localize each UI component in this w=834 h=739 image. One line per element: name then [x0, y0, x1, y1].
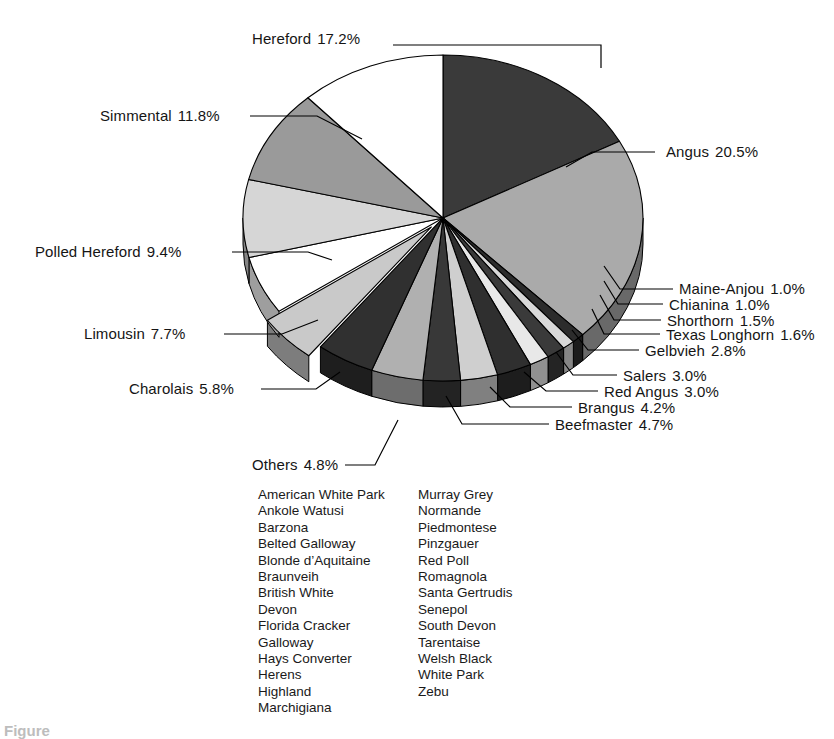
breed-item-left-2: Barzona	[258, 520, 418, 536]
breed-item-right-2: Piedmontese	[418, 520, 513, 536]
callout-hereford-name: Hereford	[252, 30, 311, 47]
callout-texas-longhorn-pct: 1.6%	[780, 326, 815, 343]
breed-item-right-8: South Devon	[418, 618, 513, 634]
breed-item-right-11: White Park	[418, 667, 513, 683]
breed-item-right-4: Red Poll	[418, 553, 513, 569]
breed-item-left-6: British White	[258, 585, 418, 601]
leader-others	[345, 420, 398, 465]
callout-red-angus-pct: 3.0%	[684, 383, 719, 400]
callout-polled-hereford-name: Polled Hereford	[35, 243, 141, 260]
callout-others-name: Others	[252, 456, 298, 473]
breed-item-left-0: American White Park	[258, 487, 418, 503]
callout-brangus: Brangus4.2%	[578, 399, 675, 416]
callout-others-pct: 4.8%	[304, 456, 339, 473]
callout-gelbvieh-pct: 2.8%	[711, 342, 746, 359]
callout-charolais-name: Charolais	[129, 380, 193, 397]
callout-polled-hereford-pct: 9.4%	[147, 243, 182, 260]
others-breed-column-left: American White ParkAnkole WatusiBarzonaB…	[258, 487, 418, 717]
others-breed-lists: American White ParkAnkole WatusiBarzonaB…	[258, 487, 513, 717]
breed-item-left-4: Blonde d’Aquitaine	[258, 553, 418, 569]
breed-item-left-11: Herens	[258, 667, 418, 683]
callout-angus-name: Angus	[666, 143, 709, 160]
callout-simmental-name: Simmental	[100, 107, 172, 124]
callout-texas-longhorn: Texas Longhorn1.6%	[666, 326, 815, 343]
callout-simmental: Simmental11.8%	[100, 107, 220, 124]
pie-top-face	[243, 55, 643, 381]
callout-chianina-pct: 1.0%	[735, 296, 770, 313]
callout-chianina-name: Chianina	[669, 296, 729, 313]
callout-hereford: Hereford17.2%	[252, 30, 360, 47]
callout-salers-pct: 3.0%	[672, 367, 707, 384]
callout-maine-anjou-name: Maine-Anjou	[679, 280, 764, 297]
callout-gelbvieh: Gelbvieh2.8%	[645, 342, 746, 359]
callout-simmental-pct: 11.8%	[178, 107, 220, 124]
others-breed-column-right: Murray GreyNormandePiedmontesePinzgauerR…	[418, 487, 513, 717]
breed-item-left-5: Braunveih	[258, 569, 418, 585]
pie-slice-depth-red-angus	[423, 380, 461, 407]
callout-charolais-pct: 5.8%	[199, 380, 234, 397]
callout-beefmaster-pct: 4.7%	[639, 416, 674, 433]
callout-limousin: Limousin7.7%	[84, 325, 185, 342]
callout-limousin-name: Limousin	[84, 325, 145, 342]
breed-item-left-13: Marchigiana	[258, 700, 418, 716]
breed-item-right-9: Tarentaise	[418, 635, 513, 651]
figure-caption: Figure	[4, 722, 50, 739]
callout-angus-pct: 20.5%	[715, 143, 758, 160]
callout-limousin-pct: 7.7%	[151, 325, 186, 342]
callout-red-angus-name: Red Angus	[604, 383, 678, 400]
callout-hereford-pct: 17.2%	[317, 30, 360, 47]
callout-salers: Salers3.0%	[623, 367, 707, 384]
callout-brangus-name: Brangus	[578, 399, 635, 416]
callout-maine-anjou: Maine-Anjou1.0%	[679, 280, 805, 297]
callout-texas-longhorn-name: Texas Longhorn	[666, 326, 774, 343]
breed-item-left-8: Florida Cracker	[258, 618, 418, 634]
breed-item-right-0: Murray Grey	[418, 487, 513, 503]
breed-item-left-9: Galloway	[258, 635, 418, 651]
breed-item-right-1: Normande	[418, 503, 513, 519]
breed-item-left-12: Highland	[258, 684, 418, 700]
breed-item-left-3: Belted Galloway	[258, 536, 418, 552]
callout-beefmaster-name: Beefmaster	[555, 416, 633, 433]
callout-chianina: Chianina1.0%	[669, 296, 770, 313]
callout-others: Others4.8%	[252, 456, 338, 473]
breed-item-right-12: Zebu	[418, 684, 513, 700]
callout-polled-hereford: Polled Hereford9.4%	[35, 243, 181, 260]
breed-item-right-3: Pinzgauer	[418, 536, 513, 552]
breed-item-right-5: Romagnola	[418, 569, 513, 585]
callout-gelbvieh-name: Gelbvieh	[645, 342, 705, 359]
breed-item-left-1: Ankole Watusi	[258, 503, 418, 519]
callout-salers-name: Salers	[623, 367, 666, 384]
breed-item-right-6: Santa Gertrudis	[418, 585, 513, 601]
callout-angus: Angus20.5%	[666, 143, 758, 160]
callout-maine-anjou-pct: 1.0%	[770, 280, 805, 297]
breed-item-left-10: Hays Converter	[258, 651, 418, 667]
breed-item-right-7: Senepol	[418, 602, 513, 618]
breed-item-right-10: Welsh Black	[418, 651, 513, 667]
callout-brangus-pct: 4.2%	[641, 399, 676, 416]
callout-beefmaster: Beefmaster4.7%	[555, 416, 673, 433]
callout-red-angus: Red Angus3.0%	[604, 383, 719, 400]
callout-charolais: Charolais5.8%	[129, 380, 234, 397]
breed-item-left-7: Devon	[258, 602, 418, 618]
